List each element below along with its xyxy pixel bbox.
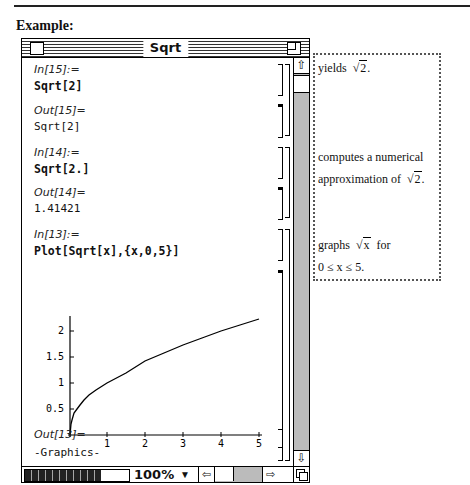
group-bracket[interactable]: [285, 64, 290, 136]
cell-output-out15: Sqrt[2]: [34, 120, 80, 133]
cell-label-in15: In[15]:=: [34, 63, 80, 76]
scroll-up-arrow-icon[interactable]: ⇧: [294, 58, 309, 74]
cell-output-out13: -Graphics-: [34, 446, 100, 459]
scroll-thumb[interactable]: [294, 75, 309, 93]
description-in15: yields √2.: [318, 57, 440, 79]
cell-input-in14[interactable]: Sqrt[2.]: [34, 162, 89, 176]
group-bracket[interactable]: [285, 229, 290, 461]
notebook-window: Sqrt In[15]:= Sqrt[2] Out[15]= Sqrt[2] I…: [21, 38, 310, 483]
cell-input-in15[interactable]: Sqrt[2]: [34, 79, 82, 93]
magnification-slider[interactable]: [24, 469, 130, 482]
title-bar[interactable]: Sqrt: [22, 39, 309, 58]
bottom-bar: 100% ▼ ⇦ ⇨: [22, 466, 309, 482]
close-box-icon[interactable]: [30, 42, 44, 55]
cell-output-out14: 1.41421: [34, 202, 80, 215]
horizontal-scrollbar[interactable]: [214, 467, 263, 482]
cell-bracket[interactable]: [278, 64, 283, 96]
cell-label-out15: Out[15]=: [34, 104, 86, 117]
cell-label-out14: Out[14]=: [34, 186, 86, 199]
grow-box-icon[interactable]: [293, 467, 309, 482]
zoom-box-icon[interactable]: [287, 42, 301, 55]
description-in13: graphs √x for 0 ≤ x ≤ 5.: [318, 234, 440, 278]
svg-text:4: 4: [218, 438, 224, 448]
svg-text:1: 1: [104, 438, 110, 448]
svg-text:3: 3: [180, 438, 186, 448]
window-title: Sqrt: [143, 39, 188, 57]
cell-label-in14: In[14]:=: [34, 146, 80, 159]
example-heading: Example:: [16, 18, 74, 34]
scroll-right-arrow-icon[interactable]: ⇨: [262, 467, 278, 482]
horizontal-scroll-thumb[interactable]: [215, 467, 234, 481]
cell-input-in13[interactable]: Plot[Sqrt[x],{x,0,5}]: [34, 244, 179, 258]
cell-bracket[interactable]: [278, 147, 283, 179]
cell-label-in13: In[13]:=: [34, 228, 80, 241]
description-in14: computes a numerical approximation of √2…: [318, 146, 440, 190]
svg-text:1.5: 1.5: [46, 351, 64, 362]
cell-label-out13: Out[13]=: [34, 428, 86, 441]
sqrt-symbol: √2: [353, 57, 368, 79]
zoom-percentage[interactable]: 100%: [134, 467, 174, 482]
scroll-down-arrow-icon[interactable]: ⇩: [294, 450, 309, 466]
scroll-left-arrow-icon[interactable]: ⇦: [198, 467, 214, 482]
cell-bracket[interactable]: [278, 187, 283, 220]
cell-bracket[interactable]: [278, 229, 283, 261]
group-bracket[interactable]: [285, 147, 290, 218]
notebook-content[interactable]: In[15]:= Sqrt[2] Out[15]= Sqrt[2] In[14]…: [22, 58, 293, 466]
vertical-scrollbar[interactable]: ⇧ ⇩: [293, 58, 309, 466]
top-rule: [14, 5, 470, 7]
cell-bracket[interactable]: [278, 104, 283, 138]
svg-text:1: 1: [58, 377, 64, 388]
svg-text:0.5: 0.5: [46, 403, 64, 414]
svg-text:2: 2: [142, 438, 148, 448]
sqrt-symbol: √x: [356, 234, 371, 256]
svg-text:2: 2: [58, 325, 64, 336]
svg-text:5: 5: [256, 438, 262, 448]
sqrt-symbol: √2: [407, 168, 422, 190]
zoom-dropdown-icon[interactable]: ▼: [180, 467, 190, 482]
cell-bracket[interactable]: [278, 429, 283, 461]
description-panel: yields √2. computes a numerical approxim…: [313, 53, 441, 281]
graphics-bracket[interactable]: [278, 270, 283, 448]
